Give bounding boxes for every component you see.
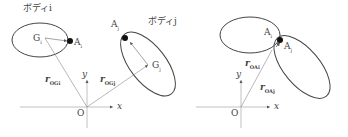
- label-r-OAi-sub: OAi: [250, 64, 260, 70]
- label-Ai-right-sub: i: [271, 33, 273, 39]
- label-r-OAi: rOAi: [245, 59, 260, 70]
- body-i-label: ボディi: [23, 4, 52, 13]
- y-axis-label-right: y: [236, 70, 241, 79]
- y-axis-label: y: [82, 70, 87, 79]
- point-Aj: [122, 35, 128, 41]
- label-r-OAj: rOAj: [260, 83, 275, 94]
- label-Ai-right: Ai: [264, 28, 272, 39]
- label-Ai-sub: i: [81, 43, 83, 49]
- vector-Gj-Aj: [130, 42, 148, 65]
- x-axis-label: x: [117, 102, 122, 111]
- label-Aj-sub: j: [118, 25, 120, 31]
- vector-Gi-Ai: [45, 38, 67, 41]
- label-Gi: Gi: [33, 34, 42, 45]
- body-j-ellipse: [110, 23, 185, 105]
- label-r-OGi: rOGi: [45, 75, 60, 86]
- label-Aj-right-sub: j: [291, 47, 293, 53]
- label-r-OAj-sub: OAj: [265, 88, 275, 94]
- point-Ai: [67, 38, 73, 44]
- label-Gj-sub: j: [159, 66, 161, 72]
- label-Aj: Aj: [111, 20, 119, 31]
- x-axis-label-right: x: [274, 102, 279, 111]
- body-j-label: ボディj: [148, 17, 177, 26]
- label-Ai: Ai: [74, 38, 82, 49]
- label-Gi-sub: i: [40, 39, 42, 45]
- label-Gj: Gj: [152, 61, 161, 72]
- label-r-OGi-sub: OGi: [50, 80, 61, 86]
- label-r-OGj-sub: OGj: [105, 80, 115, 86]
- body-j-ellipse-right: [264, 26, 340, 107]
- label-Aj-right: Aj: [284, 42, 292, 53]
- origin-label: O: [77, 109, 84, 118]
- origin-label-right: O: [231, 109, 238, 118]
- point-A-right: [277, 37, 283, 43]
- label-r-OGj: rOGj: [100, 75, 115, 86]
